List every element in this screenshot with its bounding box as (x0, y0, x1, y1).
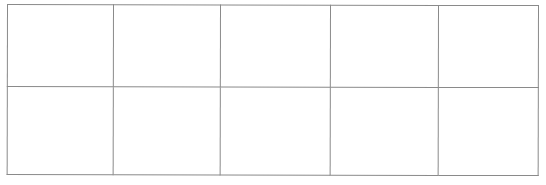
grid-cell-r1c0[interactable] (7, 87, 113, 175)
grid-cell-text (221, 87, 330, 94)
grid-cell-r0c1[interactable] (113, 5, 220, 87)
grid-cell-r1c4[interactable] (438, 87, 538, 175)
grid-cell-text (8, 87, 113, 94)
grid-body (7, 5, 538, 176)
grid-cell-text (114, 5, 220, 12)
grid-cell-r0c4[interactable] (438, 5, 538, 87)
grid-cell-text (331, 88, 438, 95)
page-canvas (0, 0, 546, 185)
table-row (7, 87, 538, 176)
grid-cell-text (8, 5, 113, 12)
grid-cell-r1c1[interactable] (113, 87, 220, 175)
grid-cell-text (439, 88, 538, 95)
grid-cell-r0c3[interactable] (330, 5, 438, 87)
blank-grid-table (7, 4, 539, 176)
grid-cell-text (439, 6, 538, 13)
grid-cell-text (331, 6, 438, 13)
grid-cell-r0c0[interactable] (7, 5, 113, 87)
grid-cell-text (221, 5, 330, 12)
grid-cell-r0c2[interactable] (220, 5, 330, 87)
grid-cell-text (114, 87, 220, 94)
grid-cell-r1c3[interactable] (330, 87, 438, 175)
grid-container (7, 4, 538, 174)
table-row (7, 5, 538, 88)
grid-cell-r1c2[interactable] (220, 87, 330, 175)
